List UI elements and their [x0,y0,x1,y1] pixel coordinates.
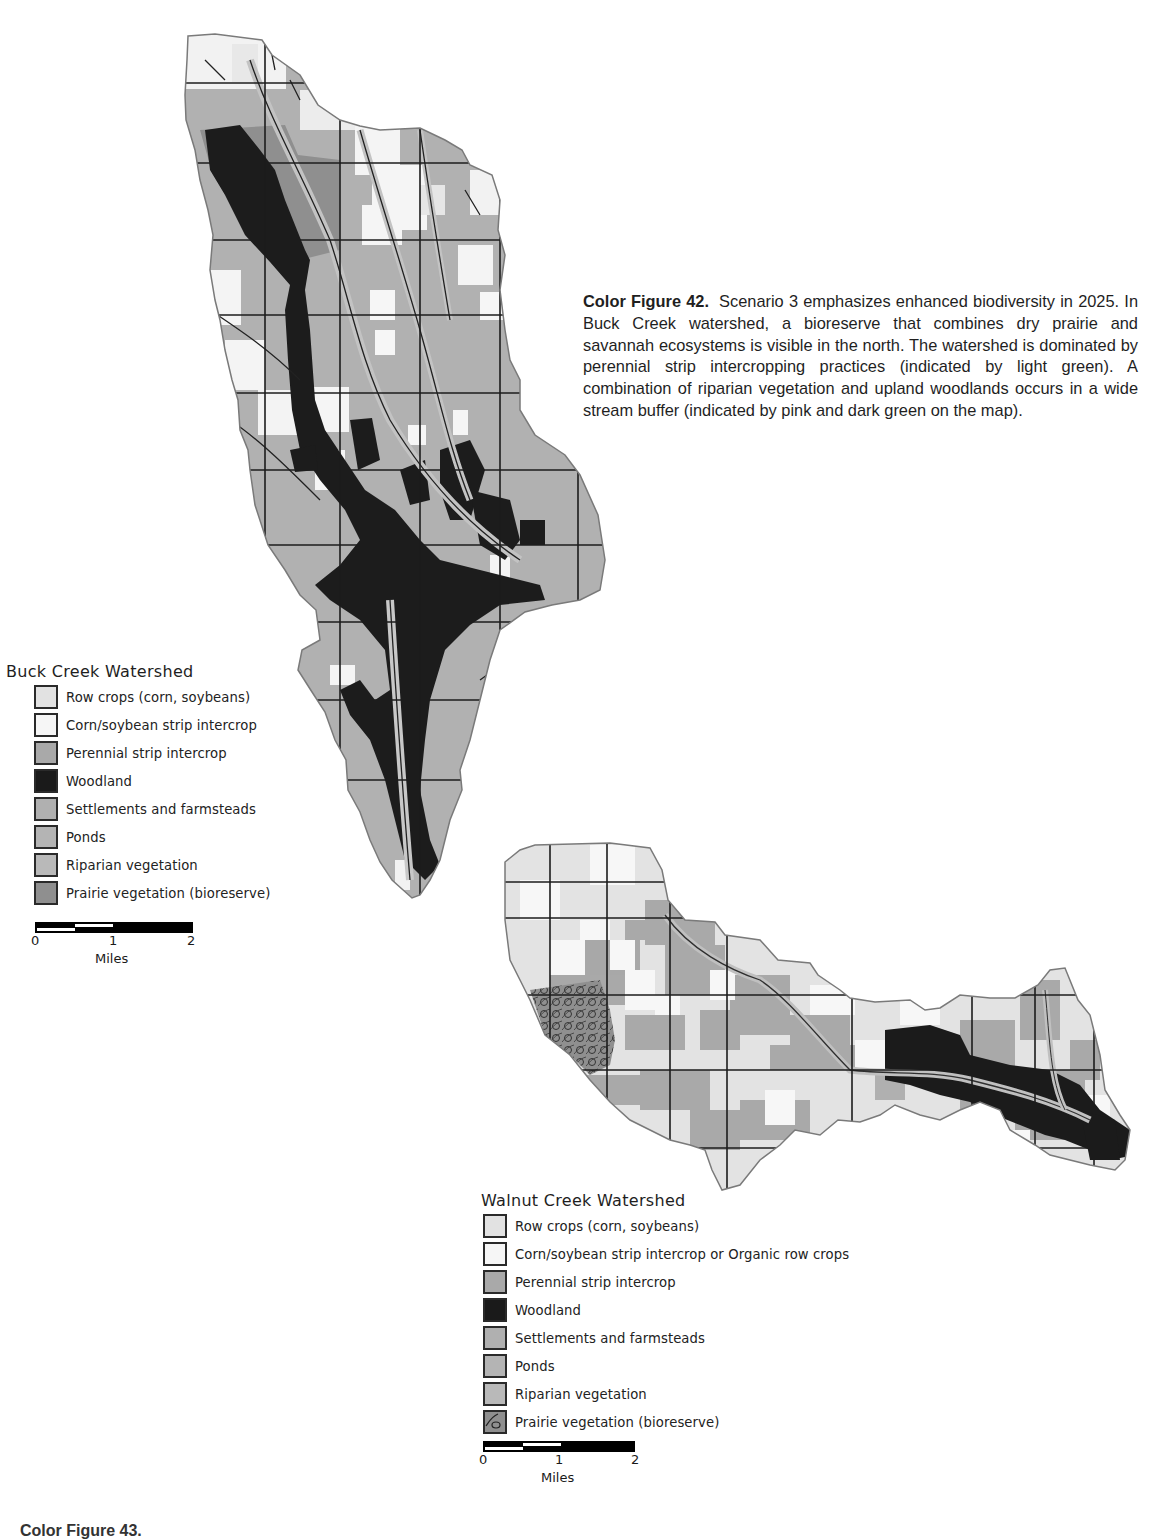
swatch-icon [483,1298,507,1322]
scale-ticks: 0 1 2 [483,1452,653,1470]
scale-bar [35,922,193,933]
swatch-icon [34,881,58,905]
legend-item-riparian: Riparian vegetation [483,1380,849,1408]
swatch-icon [34,825,58,849]
scale-bar [483,1441,635,1452]
walnut-creek-legend: Walnut Creek Watershed Row crops (corn, … [481,1191,849,1436]
next-figure-caption-cutoff: Color Figure 43. [20,1522,142,1540]
legend-list: Row crops (corn, soybeans) Corn/soybean … [34,683,270,907]
walnut-creek-scale: 0 1 2 Miles [483,1441,653,1485]
walnut-creek-landuse [490,840,1140,1210]
legend-title: Buck Creek Watershed [6,662,270,681]
legend-item-riparian: Riparian vegetation [34,851,270,879]
legend-item-prairie: Prairie vegetation (bioreserve) [483,1408,849,1436]
swatch-icon [483,1354,507,1378]
caption-text: Scenario 3 emphasizes enhanced biodivers… [583,292,1138,419]
swatch-icon [34,741,58,765]
legend-item-row-crops: Row crops (corn, soybeans) [483,1212,849,1240]
legend-item-settlements: Settlements and farmsteads [483,1324,849,1352]
legend-item-ponds: Ponds [483,1352,849,1380]
legend-title: Walnut Creek Watershed [481,1191,849,1210]
swatch-icon [34,797,58,821]
buck-creek-legend: Buck Creek Watershed Row crops (corn, so… [6,662,270,907]
swatch-icon [34,685,58,709]
prairie-hatch-icon [483,1410,507,1434]
scale-unit: Miles [95,951,205,966]
legend-item-settlements: Settlements and farmsteads [34,795,270,823]
figure-caption: Color Figure 42.Scenario 3 emphasizes en… [583,291,1138,422]
scale-ticks: 0 1 2 [35,933,205,951]
legend-item-woodland: Woodland [34,767,270,795]
figure-label: Color Figure 42. [583,292,709,310]
swatch-icon [34,769,58,793]
swatch-icon [483,1214,507,1238]
scale-unit: Miles [541,1470,653,1485]
legend-item-perennial: Perennial strip intercrop [34,739,270,767]
legend-item-prairie: Prairie vegetation (bioreserve) [34,879,270,907]
swatch-icon [483,1382,507,1406]
buck-creek-scale: 0 1 2 Miles [35,922,205,966]
legend-item-strip-intercrop: Corn/soybean strip intercrop [34,711,270,739]
swatch-icon [483,1242,507,1266]
swatch-icon [483,1326,507,1350]
legend-item-woodland: Woodland [483,1296,849,1324]
legend-list: Row crops (corn, soybeans) Corn/soybean … [483,1212,849,1436]
walnut-creek-map [490,840,1140,1210]
legend-item-row-crops: Row crops (corn, soybeans) [34,683,270,711]
legend-item-perennial: Perennial strip intercrop [483,1268,849,1296]
swatch-icon [34,713,58,737]
legend-item-ponds: Ponds [34,823,270,851]
swatch-icon [483,1270,507,1294]
legend-item-strip-intercrop: Corn/soybean strip intercrop or Organic … [483,1240,849,1268]
swatch-icon [34,853,58,877]
